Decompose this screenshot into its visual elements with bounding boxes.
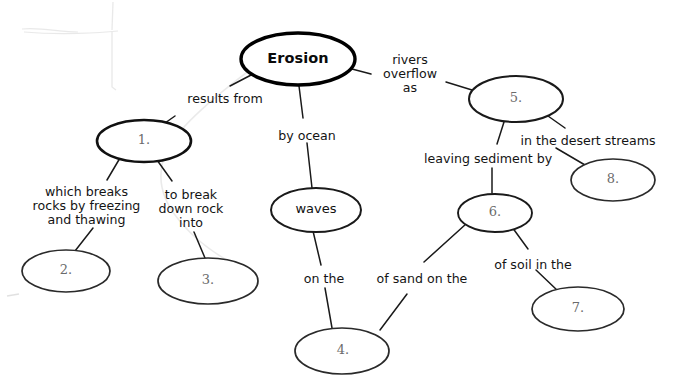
connector-n6-of-sand-on-the (424, 224, 466, 262)
connector-in-the-desert-n8 (556, 148, 585, 165)
connector-of-soil-in-the-n7 (536, 270, 558, 291)
node-ellipse-5[interactable] (469, 76, 563, 122)
connector-erosion-rivers-overflow (352, 69, 371, 74)
node-ellipse-4[interactable] (295, 328, 389, 374)
concept-map-graphics (0, 0, 690, 389)
node-ellipse-erosion[interactable] (241, 33, 355, 85)
connector-n5-in-the-desert (548, 116, 565, 128)
pencil-guide-marks (22, 2, 118, 90)
node-ellipses (22, 33, 655, 374)
node-ellipse-7[interactable] (532, 287, 624, 331)
connector-n1-which-breaks (107, 158, 120, 180)
connector-n1-to-break-down (157, 160, 172, 181)
connector-of-sand-on-the-n4 (380, 294, 407, 330)
connector-n5-leaving-sediment (497, 122, 504, 144)
node-ellipse-2[interactable] (22, 250, 110, 292)
node-ellipse-6[interactable] (458, 194, 532, 232)
connector-which-breaks-n2 (75, 228, 93, 251)
pencil-smudge-arc (156, 64, 258, 268)
node-ellipse-8[interactable] (571, 159, 655, 201)
pencil-stray-dash (7, 294, 19, 296)
connector-rivers-overflow-n5 (446, 82, 472, 90)
concept-map-canvas: Erosion 1. 2. 3. waves 4. 5. 6. 7. 8. re… (0, 0, 690, 389)
connector-on-the-n4 (325, 288, 332, 328)
node-ellipse-waves[interactable] (271, 188, 361, 232)
connector-by-ocean-waves (307, 143, 312, 188)
connector-erosion-by-ocean (299, 86, 303, 118)
node-ellipse-1[interactable] (97, 120, 191, 162)
connector-n6-of-soil-in-the (512, 227, 528, 249)
connector-waves-on-the (313, 231, 321, 265)
node-ellipse-3[interactable] (158, 258, 258, 304)
